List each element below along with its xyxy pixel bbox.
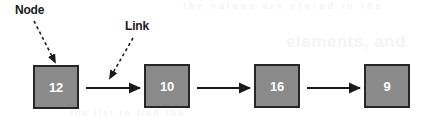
ghost-text-heading: elements, and [286, 32, 406, 52]
callout-arrow-link [110, 38, 133, 78]
callout-label-node: Node [15, 3, 44, 17]
list-node: 12 [33, 65, 79, 109]
ghost-text-top: the values are stored in the [183, 1, 384, 11]
list-node: 9 [364, 64, 410, 108]
callout-arrow-node [34, 21, 55, 62]
ghost-text-bottom: the list to find the [70, 108, 185, 118]
list-node: 16 [254, 64, 300, 108]
node-value: 16 [256, 80, 298, 93]
linked-list-diagram: the values are stored in the elements, a… [0, 0, 429, 123]
node-value: 9 [366, 80, 408, 93]
callout-label-link: Link [125, 19, 149, 33]
node-value: 10 [146, 80, 188, 93]
node-value: 12 [35, 81, 77, 94]
list-node: 10 [144, 64, 190, 108]
